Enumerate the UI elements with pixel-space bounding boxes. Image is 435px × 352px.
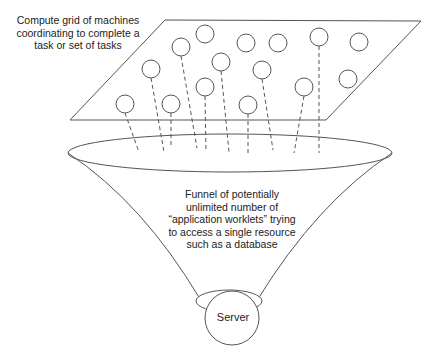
grid-label-line: task or set of tasks <box>8 39 148 52</box>
dashed-connector <box>125 113 139 152</box>
machine-node <box>239 96 257 114</box>
machine-node <box>310 28 328 46</box>
machine-node <box>253 61 271 79</box>
machine-node <box>162 95 180 113</box>
dashed-connector <box>262 79 273 150</box>
funnel-label-line: such as a database <box>142 238 322 251</box>
funnel-label-line: “application worklets” trying <box>142 213 322 226</box>
machine-node <box>350 33 368 51</box>
funnel-label: Funnel of potentially unlimited number o… <box>142 188 322 251</box>
machine-node <box>196 78 214 96</box>
machine-node <box>196 25 214 43</box>
funnel-label-line: unlimited number of <box>142 201 322 214</box>
machine-node <box>237 34 255 52</box>
dashed-connector <box>294 96 304 153</box>
funnel-top-ellipse <box>68 134 392 172</box>
dashed-connector <box>205 96 206 152</box>
machine-node <box>172 38 190 56</box>
grid-label-line: Compute grid of machines <box>8 14 148 27</box>
funnel-label-line: to access a single resource <box>142 226 322 239</box>
server-label: Server <box>203 311 263 324</box>
machine-node <box>212 53 230 71</box>
dashed-connector <box>221 71 229 152</box>
machine-node <box>295 78 313 96</box>
machine-node <box>142 60 160 78</box>
funnel-label-line: Funnel of potentially <box>142 188 322 201</box>
machine-node <box>116 95 134 113</box>
dashed-connector <box>151 78 164 152</box>
grid-label-line: coordinating to complete a <box>8 27 148 40</box>
compute-grid-funnel-diagram <box>0 0 435 352</box>
machine-node <box>269 34 287 52</box>
machine-node <box>339 70 357 88</box>
compute-grid-label: Compute grid of machines coordinating to… <box>8 14 148 52</box>
